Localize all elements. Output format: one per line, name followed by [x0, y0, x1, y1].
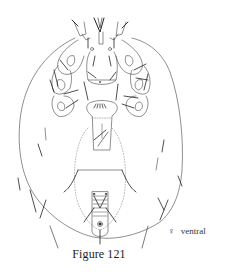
gnathosoma	[72, 18, 128, 51]
posterior-marginal-setae	[30, 190, 168, 248]
view-label: ventral	[181, 226, 206, 236]
coxae-left	[50, 40, 88, 117]
anal-shield	[84, 192, 116, 244]
ventral-setae	[18, 128, 182, 192]
genital-shield	[87, 101, 118, 151]
figure-121: ♀ventral Figure 121	[0, 0, 228, 272]
figure-caption: Figure 121	[0, 247, 198, 262]
body-outline	[19, 38, 182, 238]
female-symbol-icon: ♀	[168, 226, 175, 236]
sex-view-label: ♀ventral	[168, 226, 206, 236]
coxae-right	[116, 40, 150, 117]
sternal-shield	[87, 52, 118, 85]
